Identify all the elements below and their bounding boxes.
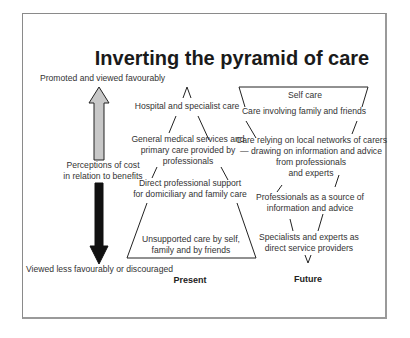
present-level-general-medical: General medical services and primary car… bbox=[128, 134, 248, 167]
future-level-specialists-line1: Specialists and experts as bbox=[255, 232, 363, 243]
future-level-professionals-source-line2: information and advice bbox=[250, 203, 370, 214]
up-arrow-icon bbox=[89, 87, 109, 160]
discouraged-label: Viewed less favourably or discouraged bbox=[26, 264, 173, 275]
present-level-unsupported-line2: family and by friends bbox=[136, 245, 246, 256]
future-level-self-care: Self care bbox=[260, 90, 350, 101]
future-caption: Future bbox=[278, 274, 338, 285]
future-level-local-networks-line3: from professionals bbox=[236, 157, 386, 168]
future-level-professionals-source: Professionals as a source of information… bbox=[250, 192, 370, 214]
present-level-direct-support-line2: for domiciliary and family care bbox=[128, 189, 252, 200]
present-level-general-medical-line1: General medical services and bbox=[128, 134, 248, 145]
future-level-specialists-line2: direct service providers bbox=[255, 243, 363, 254]
future-level-local-networks-line1: Care relying on local networks of carers bbox=[236, 135, 386, 146]
promoted-label: Promoted and viewed favourably bbox=[40, 73, 165, 84]
present-level-unsupported-line1: Unsupported care by self, bbox=[136, 234, 246, 245]
present-level-hospital: Hospital and specialist care bbox=[132, 101, 242, 112]
future-level-local-networks-line2: — drawing on information and advice bbox=[236, 146, 386, 157]
future-level-local-networks-line4: and experts bbox=[236, 168, 386, 179]
future-level-specialists: Specialists and experts as direct servic… bbox=[255, 232, 363, 254]
present-level-general-medical-line3: professionals bbox=[128, 156, 248, 167]
future-level-professionals-source-line1: Professionals as a source of bbox=[250, 192, 370, 203]
present-level-direct-support-line1: Direct professional support bbox=[128, 178, 252, 189]
present-caption: Present bbox=[160, 275, 220, 286]
present-level-general-medical-line2: primary care provided by bbox=[128, 145, 248, 156]
down-arrow-icon bbox=[90, 183, 108, 264]
present-level-unsupported: Unsupported care by self, family and by … bbox=[136, 234, 246, 256]
future-level-family-friends: Care involving family and friends bbox=[236, 106, 372, 117]
present-level-direct-support: Direct professional support for domicili… bbox=[128, 178, 252, 200]
future-level-local-networks: Care relying on local networks of carers… bbox=[236, 135, 386, 179]
